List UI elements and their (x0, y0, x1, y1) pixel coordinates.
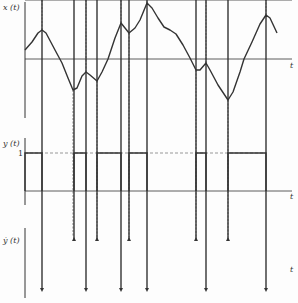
square-pulse (196, 153, 206, 191)
arrow-up-icon (226, 237, 230, 241)
arrow-up-icon (194, 237, 198, 241)
square-pulse (25, 153, 42, 191)
x-axis-label: x (t) (3, 3, 20, 12)
panel-x-signal (25, 2, 292, 118)
t-label-y: t (290, 192, 294, 201)
arrow-down-icon (145, 288, 149, 292)
signal-diagram: x (t) t y (t) 1 t ẏ (t) t (0, 0, 298, 303)
dashed-projection-lines (42, 0, 266, 237)
arrow-up-icon (72, 237, 76, 241)
arrow-down-icon (40, 288, 44, 292)
diagram-canvas: x (t) t y (t) 1 t ẏ (t) t (0, 0, 298, 303)
panel-ydot-impulses (25, 0, 292, 298)
arrow-up-icon (127, 237, 131, 241)
arrow-down-icon (119, 288, 123, 292)
t-label-x: t (290, 61, 294, 70)
arrow-down-icon (84, 288, 88, 292)
level-one-label: 1 (18, 149, 23, 158)
square-pulse (74, 153, 86, 191)
square-pulse (129, 153, 147, 191)
arrow-down-icon (264, 288, 268, 292)
axis-labels: x (t) t y (t) 1 t ẏ (t) t (2, 3, 294, 274)
t-label-ydot: t (290, 265, 294, 274)
ydot-axis-label: ẏ (t) (2, 236, 20, 245)
y-axis-label: y (t) (2, 139, 20, 148)
panel-y-square-wave (25, 138, 292, 205)
arrow-up-icon (95, 237, 99, 241)
square-pulse (97, 153, 121, 191)
arrow-down-icon (204, 288, 208, 292)
x-signal-curve (25, 3, 277, 100)
square-pulse (228, 153, 266, 191)
